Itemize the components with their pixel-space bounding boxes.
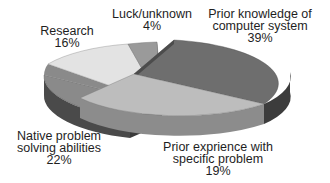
label-research: Research 16% <box>40 25 94 49</box>
label-prior-knowledge-pct: 39% <box>208 32 312 44</box>
label-native: Native problem solving abilities 22% <box>17 130 101 166</box>
label-prior-knowledge: Prior knowledge of computer system 39% <box>208 8 312 44</box>
label-research-pct: 16% <box>40 37 94 49</box>
label-native-pct: 22% <box>17 154 101 166</box>
label-prior-experience-pct: 19% <box>163 165 273 177</box>
label-luck: Luck/unknown 4% <box>112 8 192 32</box>
label-prior-experience: Prior exprience with specific problem 19… <box>163 141 273 177</box>
label-luck-pct: 4% <box>112 20 192 32</box>
